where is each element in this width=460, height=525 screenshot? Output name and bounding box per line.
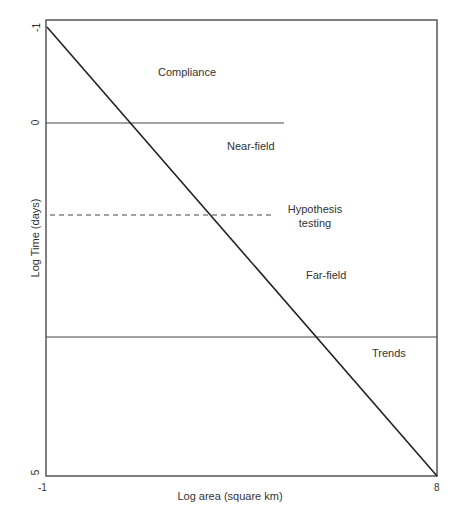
region-far-field: Far-field <box>306 268 346 282</box>
region-compliance: Compliance <box>158 65 216 79</box>
x-axis-label: Log area (square km) <box>0 490 460 502</box>
region-near-field: Near-field <box>227 139 275 153</box>
region-hypothesis-testing: Hypothesis testing <box>285 202 345 230</box>
hypothesis-line1: Hypothesis <box>285 202 345 216</box>
diagram-canvas <box>0 0 460 525</box>
y-axis-label: Log Time (days) <box>29 183 41 293</box>
y-tick-top: -1 <box>31 23 42 32</box>
y-tick-zero: 0 <box>30 120 41 126</box>
y-tick-bottom: 5 <box>30 470 41 476</box>
hypothesis-line2: testing <box>285 216 345 230</box>
diagonal-line <box>47 27 437 476</box>
region-trends: Trends <box>372 346 406 360</box>
